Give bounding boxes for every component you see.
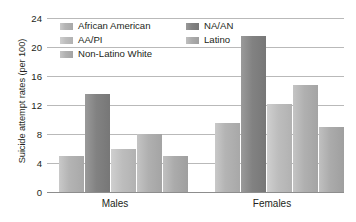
legend-label: Non-Latino White [78, 49, 152, 59]
bar-females-latino [319, 127, 344, 192]
y-axis-title: Suicide attempt rates (per 100) [17, 11, 27, 191]
y-tick-label-16: 16 [31, 71, 42, 82]
category-label-males: Males [102, 198, 129, 209]
legend-item-na-an[interactable]: NA/AN [186, 19, 233, 33]
legend-column-2: NA/ANLatino [186, 19, 233, 47]
legend-label: NA/AN [204, 21, 233, 31]
y-tick-label-12: 12 [31, 100, 42, 111]
legend-label: Latino [204, 35, 230, 45]
bar-females-non-latino-white [293, 85, 318, 192]
y-tick-label-20: 20 [31, 42, 42, 53]
category-label-females: Females [253, 198, 291, 209]
y-tick-label-0: 0 [37, 187, 42, 198]
legend-item-african-american[interactable]: African American [60, 19, 152, 33]
legend-label: African American [78, 21, 151, 31]
bar-males-na-an [85, 94, 110, 192]
legend-swatch-icon [186, 23, 199, 30]
y-tick-label-4: 4 [37, 158, 42, 169]
bar-females-african-american [215, 123, 240, 192]
legend-label: AA/PI [78, 35, 103, 45]
legend-item-aa-pi[interactable]: AA/PI [60, 33, 152, 47]
legend-swatch-icon [186, 37, 199, 44]
bar-males-non-latino-white [137, 134, 162, 192]
bar-males-african-american [59, 156, 84, 192]
legend-column-1: African AmericanAA/PINon-Latino White [60, 19, 152, 61]
bar-males-latino [163, 156, 188, 192]
legend-swatch-icon [60, 23, 73, 30]
gridline-16: 16 [47, 76, 344, 77]
legend: African AmericanAA/PINon-Latino White NA… [60, 19, 275, 61]
legend-swatch-icon [60, 37, 73, 44]
bar-females-aa-pi [267, 104, 292, 192]
y-tick-label-8: 8 [37, 129, 42, 140]
legend-item-non-latino-white[interactable]: Non-Latino White [60, 47, 152, 61]
legend-swatch-icon [60, 51, 73, 58]
bar-chart: Suicide attempt rates (per 100) 24 20 16… [0, 0, 356, 222]
y-tick-label-24: 24 [31, 13, 42, 24]
legend-item-latino[interactable]: Latino [186, 33, 233, 47]
gridline-0-baseline: 0 [47, 192, 344, 193]
bar-males-aa-pi [111, 149, 136, 193]
